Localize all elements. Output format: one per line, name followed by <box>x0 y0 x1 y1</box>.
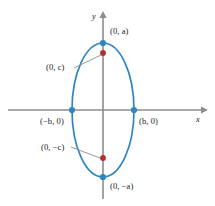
label-bottom-vertex: (0, −a) <box>110 182 133 191</box>
ellipse-diagram-canvas <box>0 0 215 206</box>
label-top-vertex: (0, a) <box>110 27 129 36</box>
point-right-vertex <box>131 107 137 113</box>
x-axis-arrow-icon <box>201 106 208 113</box>
ellipse-figure: (0, a) (0, −a) (−b, 0) (b, 0) (0, c) (0,… <box>0 0 215 206</box>
label-left-vertex: (−b, 0) <box>40 117 64 126</box>
point-bottom-vertex <box>100 174 106 180</box>
leader-line-lower-focus <box>71 147 100 158</box>
y-axis-arrow-icon <box>99 11 106 18</box>
point-upper-focus <box>100 50 106 56</box>
label-right-vertex: (b, 0) <box>139 117 158 126</box>
x-axis-label: x <box>196 115 200 124</box>
point-top-vertex <box>100 40 106 46</box>
y-axis-label: y <box>92 12 96 21</box>
point-lower-focus <box>100 155 106 161</box>
leader-line-upper-focus <box>74 55 101 68</box>
point-left-vertex <box>69 107 75 113</box>
label-lower-focus: (0, −c) <box>41 143 64 152</box>
label-upper-focus: (0, c) <box>46 63 65 72</box>
